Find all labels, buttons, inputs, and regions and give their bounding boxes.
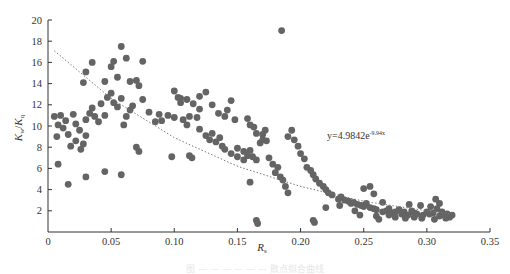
data-point [65, 181, 72, 188]
x-tick-label: 0.05 [102, 236, 120, 247]
data-point [209, 101, 216, 108]
data-point [114, 74, 121, 81]
data-point [253, 157, 260, 164]
data-point [370, 190, 377, 197]
data-point [322, 204, 329, 211]
y-tick-label: 2 [37, 205, 42, 216]
data-point [263, 137, 270, 144]
figure-caption: 图 — — — — — — 散点拟合曲线 [0, 262, 510, 274]
data-point [110, 58, 117, 65]
data-point [108, 90, 115, 97]
data-point [406, 201, 413, 208]
data-point [247, 147, 254, 154]
data-point [232, 116, 239, 123]
data-point [254, 220, 261, 227]
data-point [244, 115, 251, 122]
x-axis-title: Rs [256, 241, 267, 255]
data-point [240, 157, 247, 164]
data-point [76, 127, 83, 134]
data-point [336, 202, 343, 209]
data-point [82, 132, 89, 139]
data-point [177, 95, 184, 102]
data-point [250, 124, 257, 131]
data-point [65, 131, 72, 138]
data-point [449, 212, 456, 219]
data-point [60, 125, 67, 132]
data-point [224, 107, 231, 114]
data-point [168, 153, 175, 160]
y-tick-label: 18 [32, 36, 43, 47]
data-point [228, 150, 235, 157]
data-point [127, 78, 134, 85]
y-tick-label: 8 [37, 142, 42, 153]
data-point [442, 215, 449, 222]
data-point [228, 97, 235, 104]
data-point [118, 43, 125, 50]
data-point [184, 122, 191, 129]
data-point [301, 155, 308, 162]
data-point [95, 118, 102, 125]
y-tick-label: 16 [32, 57, 43, 68]
x-tick-label: 0.30 [418, 236, 436, 247]
data-point [360, 185, 367, 192]
data-point [431, 216, 438, 223]
y-tick-label: 14 [32, 78, 43, 89]
data-point [259, 131, 266, 138]
x-tick-label: 0.20 [291, 236, 309, 247]
data-point [216, 134, 223, 141]
data-point [190, 100, 197, 107]
data-point [285, 133, 292, 140]
data-point [70, 111, 77, 118]
data-point [72, 137, 79, 144]
data-point [221, 146, 228, 153]
data-point [189, 154, 196, 161]
data-point [375, 216, 382, 223]
data-point [146, 109, 153, 116]
data-point [80, 141, 87, 148]
data-point [285, 189, 292, 196]
data-point [295, 143, 302, 150]
x-tick-label: 0.35 [481, 236, 499, 247]
data-point [196, 126, 203, 133]
data-point [411, 214, 418, 221]
y-tick-label: 12 [32, 99, 43, 110]
data-point [357, 212, 364, 219]
y-tick-label: 10 [32, 121, 43, 132]
data-point [156, 111, 163, 118]
data-point [282, 183, 289, 190]
y-ticks: 2468101214161820 [32, 15, 53, 217]
data-point [278, 27, 285, 34]
data-point [101, 112, 108, 119]
data-point [392, 214, 399, 221]
x-tick-label: 0.15 [228, 236, 246, 247]
data-point [427, 203, 434, 210]
data-point [194, 114, 201, 121]
data-point [367, 183, 374, 190]
data-point [62, 117, 69, 124]
data-point [82, 69, 89, 76]
data-point [136, 148, 143, 155]
data-point [206, 136, 213, 143]
data-point [311, 219, 318, 226]
data-point [101, 78, 108, 85]
data-point [123, 55, 130, 62]
data-point [417, 202, 424, 209]
x-ticks: 00.050.100.150.200.250.300.35 [45, 228, 499, 247]
trendline-equation: y=4.9842e-9.94x [327, 130, 385, 141]
data-point [171, 88, 178, 95]
data-point [55, 161, 62, 168]
data-point [184, 96, 191, 103]
data-point [165, 112, 172, 119]
x-tick-label: 0 [45, 236, 50, 247]
data-point [436, 200, 443, 207]
data-point [98, 100, 105, 107]
data-point [82, 173, 89, 180]
data-point [253, 130, 260, 137]
data-point [82, 116, 89, 123]
data-point [118, 171, 125, 178]
data-point [101, 168, 108, 175]
data-point [288, 127, 295, 134]
data-point [139, 58, 146, 65]
data-point [67, 143, 74, 150]
data-point [80, 79, 87, 86]
